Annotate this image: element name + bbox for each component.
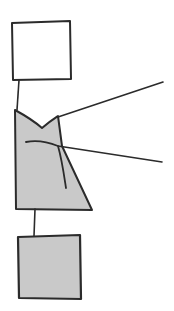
- sketch-svg: [0, 0, 174, 311]
- sketch-canvas: [0, 0, 174, 311]
- stem-line: [34, 209, 35, 236]
- base-square: [18, 235, 81, 299]
- head-square: [12, 21, 71, 80]
